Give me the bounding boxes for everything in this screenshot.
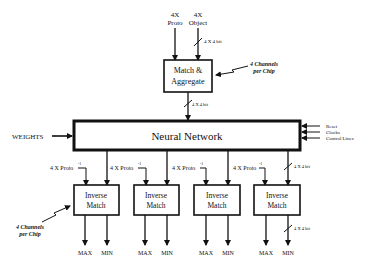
svg-text:4X: 4X bbox=[171, 11, 180, 19]
svg-text:Match: Match bbox=[267, 201, 286, 210]
svg-text:4 Channels: 4 Channels bbox=[15, 224, 45, 230]
svg-text:Object: Object bbox=[189, 19, 208, 27]
svg-text:Inverse: Inverse bbox=[206, 191, 229, 200]
svg-text:4X: 4X bbox=[194, 11, 203, 19]
svg-text:4 X Proto: 4 X Proto bbox=[233, 165, 256, 171]
match-to-nn-bus: 4 X 4 bit bbox=[184, 92, 209, 120]
proto-input: 4X Proto bbox=[167, 11, 183, 60]
block-diagram: 4X Proto 4X Object 4 X 4 bit Match & Agg… bbox=[0, 0, 370, 266]
svg-text:Control Lines: Control Lines bbox=[326, 136, 354, 141]
svg-text:Match: Match bbox=[86, 201, 105, 210]
svg-text:4 X 4 bit: 4 X 4 bit bbox=[204, 39, 222, 44]
svg-text:-1: -1 bbox=[78, 161, 81, 166]
match-aggregate-block: Match & Aggregate bbox=[164, 60, 212, 92]
svg-text:MIN: MIN bbox=[161, 250, 173, 256]
inverse-match-block-2: 4 X Proto -1 Inverse Match MAX MIN bbox=[110, 150, 179, 256]
svg-text:Inverse: Inverse bbox=[85, 191, 108, 200]
object-input: 4X Object 4 X 4 bit bbox=[189, 11, 223, 60]
control-inputs: Reset Clocks Control Lines bbox=[302, 124, 354, 141]
neural-network-block: Neural Network bbox=[74, 121, 300, 150]
svg-text:4 X 4 bit: 4 X 4 bit bbox=[294, 164, 311, 169]
svg-text:-1: -1 bbox=[259, 161, 262, 166]
svg-text:MAX: MAX bbox=[78, 250, 93, 256]
svg-text:4 Channels: 4 Channels bbox=[249, 61, 279, 67]
channels-note-top: 4 Channels per Chip bbox=[216, 61, 279, 75]
channels-note-bottom: 4 Channels per Chip bbox=[15, 206, 70, 237]
svg-text:MAX: MAX bbox=[138, 250, 153, 256]
svg-text:Match &: Match & bbox=[174, 66, 203, 75]
svg-text:4 X 4 bit: 4 X 4 bit bbox=[192, 102, 209, 107]
svg-text:4 X Proto: 4 X Proto bbox=[172, 165, 195, 171]
inverse-match-block-1: 4 X Proto -1 Inverse Match MAX MIN bbox=[50, 150, 119, 256]
svg-text:WEIGHTS: WEIGHTS bbox=[12, 133, 44, 141]
inverse-match-block-4: 4 X Proto -1 4 X 4 bit Inverse Match 4 X… bbox=[233, 150, 311, 256]
svg-text:Match: Match bbox=[146, 201, 165, 210]
svg-text:Reset: Reset bbox=[326, 124, 338, 129]
svg-text:Inverse: Inverse bbox=[266, 191, 289, 200]
svg-text:Neural Network: Neural Network bbox=[151, 130, 223, 142]
svg-text:Clocks: Clocks bbox=[326, 130, 340, 135]
svg-text:MIN: MIN bbox=[101, 250, 113, 256]
svg-text:Proto: Proto bbox=[167, 19, 183, 27]
svg-text:MAX: MAX bbox=[259, 250, 274, 256]
svg-text:4 X 4 bit: 4 X 4 bit bbox=[294, 226, 311, 231]
svg-text:Inverse: Inverse bbox=[145, 191, 168, 200]
svg-text:Aggregate: Aggregate bbox=[171, 77, 205, 86]
svg-text:MIN: MIN bbox=[222, 250, 234, 256]
svg-text:MAX: MAX bbox=[199, 250, 214, 256]
svg-text:-1: -1 bbox=[200, 161, 203, 166]
weights-input: WEIGHTS bbox=[12, 133, 72, 141]
svg-text:MIN: MIN bbox=[282, 250, 294, 256]
inverse-match-block-3: 4 X Proto -1 Inverse Match MAX MIN bbox=[172, 150, 240, 256]
svg-text:per Chip: per Chip bbox=[18, 231, 41, 237]
svg-text:per Chip: per Chip bbox=[252, 68, 275, 74]
svg-text:Match: Match bbox=[207, 201, 226, 210]
svg-text:4 X Proto: 4 X Proto bbox=[50, 165, 73, 171]
svg-text:-1: -1 bbox=[138, 161, 141, 166]
svg-text:4 X Proto: 4 X Proto bbox=[110, 165, 133, 171]
